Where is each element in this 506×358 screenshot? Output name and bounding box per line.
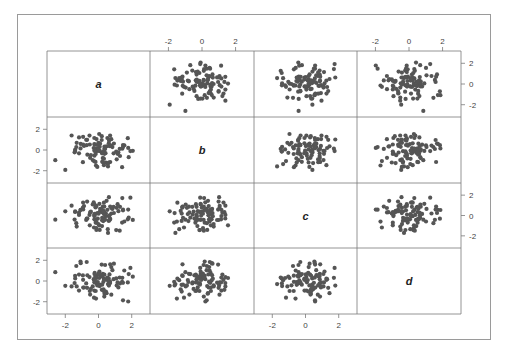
data-point	[413, 229, 417, 233]
data-point	[424, 73, 428, 77]
data-point	[115, 283, 119, 287]
data-point	[292, 152, 296, 156]
data-point	[103, 218, 107, 222]
data-point	[120, 196, 124, 200]
y-tick-label: -2	[469, 101, 477, 110]
data-point	[318, 84, 322, 88]
data-point	[316, 92, 320, 96]
data-point	[109, 293, 113, 297]
data-point	[81, 273, 85, 277]
data-point	[222, 288, 226, 292]
data-point	[400, 206, 404, 210]
data-point	[205, 284, 209, 288]
data-point	[216, 263, 220, 267]
data-point	[296, 147, 300, 151]
data-point	[428, 62, 432, 66]
data-point	[88, 223, 92, 227]
scatter-cell-d-vs-a	[374, 61, 443, 114]
data-point	[53, 218, 57, 222]
data-point	[185, 71, 189, 75]
data-point	[386, 210, 390, 214]
data-point	[385, 87, 389, 91]
data-point	[403, 134, 407, 138]
data-point	[216, 80, 220, 84]
data-point	[391, 221, 395, 225]
data-point	[415, 218, 419, 222]
data-point	[275, 76, 279, 80]
data-point	[207, 265, 211, 269]
data-point	[404, 67, 408, 71]
data-point	[313, 142, 317, 146]
data-point	[421, 158, 425, 162]
data-point	[219, 85, 223, 89]
data-point	[131, 218, 135, 222]
data-point	[286, 80, 290, 84]
data-point	[409, 92, 413, 96]
data-point	[313, 299, 317, 303]
data-point	[172, 67, 176, 71]
data-point	[438, 217, 442, 221]
data-point	[307, 160, 311, 164]
data-point	[118, 147, 122, 151]
data-point	[396, 89, 400, 93]
data-point	[191, 213, 195, 217]
data-point	[202, 78, 206, 82]
data-point	[313, 138, 317, 142]
data-point	[382, 78, 386, 82]
data-point	[319, 137, 323, 141]
y-tick-label: 2	[469, 59, 474, 68]
data-point	[63, 284, 67, 288]
data-point	[92, 272, 96, 276]
data-point	[431, 96, 435, 100]
data-point	[116, 202, 120, 206]
data-point	[293, 297, 297, 301]
data-point	[77, 289, 81, 293]
data-point	[100, 208, 104, 212]
y-tick-label: -2	[33, 167, 41, 176]
data-point	[403, 228, 407, 232]
data-point	[87, 134, 91, 138]
data-point	[424, 66, 428, 70]
data-point	[208, 67, 212, 71]
variable-label: c	[302, 210, 308, 222]
data-point	[190, 205, 194, 209]
data-point	[108, 216, 112, 220]
data-point	[382, 205, 386, 209]
data-point	[210, 273, 214, 277]
data-point	[374, 208, 378, 212]
data-point	[412, 196, 416, 200]
data-point	[190, 69, 194, 73]
data-point	[285, 141, 289, 145]
data-point	[205, 96, 209, 100]
data-point	[285, 284, 289, 288]
data-point	[422, 81, 426, 85]
scatter-cell-b-vs-a	[168, 61, 231, 114]
data-point	[391, 142, 395, 146]
data-point	[297, 97, 301, 101]
data-point	[332, 276, 336, 280]
data-point	[207, 211, 211, 215]
data-point	[418, 75, 422, 79]
data-point	[183, 270, 187, 274]
data-point	[185, 206, 189, 210]
data-point	[96, 222, 100, 226]
data-point	[70, 204, 74, 208]
scatter-cell-a-vs-c	[53, 195, 135, 235]
y-tick-label: 2	[36, 256, 41, 265]
data-point	[208, 281, 212, 285]
data-point	[313, 80, 317, 84]
data-point	[206, 292, 210, 296]
data-point	[109, 211, 113, 215]
x-tick-label: 2	[129, 321, 134, 330]
data-point	[308, 94, 312, 98]
data-point	[417, 135, 421, 139]
data-point	[173, 231, 177, 235]
data-point	[226, 223, 230, 227]
data-point	[177, 227, 181, 231]
data-point	[107, 195, 111, 199]
data-point	[95, 165, 99, 169]
data-point	[292, 165, 296, 169]
data-point	[93, 160, 97, 164]
data-point	[75, 141, 79, 145]
data-point	[403, 216, 407, 220]
